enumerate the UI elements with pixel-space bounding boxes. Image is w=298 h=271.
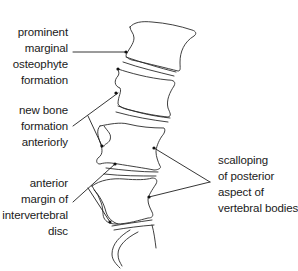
- label-anterior-margin: anterior margin of intervertebral disc: [2, 175, 68, 239]
- disc-3-lower: [104, 174, 156, 176]
- marker-dot: [147, 195, 150, 198]
- leader-new-bone-a: [73, 93, 118, 126]
- spine-diagram: prominent marginal osteophyte formation …: [0, 0, 298, 271]
- marker-dot: [116, 67, 119, 70]
- label-line: margin of: [2, 191, 68, 207]
- disc-3-upper: [106, 168, 158, 172]
- label-line: disc: [2, 223, 68, 239]
- label-line: scalloping: [218, 152, 298, 168]
- vertebra-3-anterior-bump: [104, 126, 111, 146]
- label-line: formation: [13, 72, 68, 88]
- label-line: aspect of: [218, 184, 298, 200]
- leader-anterior-margin-a: [73, 164, 115, 202]
- label-line: prominent: [13, 24, 68, 40]
- label-line: formation: [19, 118, 68, 134]
- label-new-bone: new bone formation anteriorly: [19, 102, 68, 150]
- label-line: of posterior: [218, 168, 298, 184]
- sacrum-curve-outer: [112, 230, 130, 268]
- label-line: osteophyte: [13, 56, 68, 72]
- label-line: new bone: [19, 102, 68, 118]
- label-line: intervertebral: [2, 207, 68, 223]
- marker-dot: [108, 220, 111, 223]
- marker-dot: [113, 162, 116, 165]
- marker-dot: [114, 91, 117, 94]
- disc-4-lower: [114, 225, 154, 230]
- label-line: anterior: [2, 175, 68, 191]
- vertebra-2: [115, 69, 175, 117]
- vertebra-1: [126, 22, 196, 71]
- marker-dot: [124, 50, 127, 53]
- label-line: anteriorly: [19, 134, 68, 150]
- leader-scalloping-b: [149, 182, 210, 197]
- label-line: vertebral bodies: [218, 200, 298, 216]
- leader-new-bone-b: [88, 116, 102, 146]
- marker-dot: [100, 144, 103, 147]
- disc-4-upper: [112, 220, 152, 226]
- label-line: marginal: [13, 40, 68, 56]
- leader-anterior-margin-b: [88, 188, 110, 222]
- label-scalloping: scalloping of posterior aspect of verteb…: [218, 152, 298, 216]
- label-osteophyte: prominent marginal osteophyte formation: [13, 24, 68, 88]
- leader-scalloping-a: [154, 148, 210, 182]
- vertebra-5-partial: [152, 225, 156, 248]
- marker-dot: [152, 146, 155, 149]
